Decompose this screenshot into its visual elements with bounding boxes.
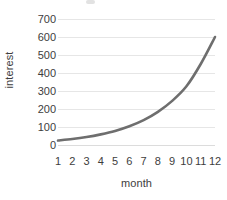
gridline [58, 145, 215, 146]
plot-area [58, 19, 215, 145]
clipped-top-artifact [86, 0, 95, 4]
y-tick-label: 400 [26, 67, 56, 79]
x-tick-label: 12 [207, 155, 223, 168]
y-tick-label: 0 [26, 139, 56, 151]
y-tick-label: 200 [26, 103, 56, 115]
x-axis-tick-labels: 123456789101112 [58, 155, 215, 169]
y-axis-title: interest [3, 40, 15, 100]
series-interest-line [58, 19, 215, 145]
y-tick-label: 700 [26, 13, 56, 25]
series-path [58, 37, 215, 141]
line-chart: interest 0100200300400500600700 12345678… [0, 0, 227, 200]
y-tick-label: 300 [26, 85, 56, 97]
y-tick-label: 100 [26, 121, 56, 133]
x-axis-title: month [58, 177, 215, 189]
y-axis-tick-labels: 0100200300400500600700 [26, 13, 56, 145]
y-tick-label: 600 [26, 31, 56, 43]
y-tick-label: 500 [26, 49, 56, 61]
